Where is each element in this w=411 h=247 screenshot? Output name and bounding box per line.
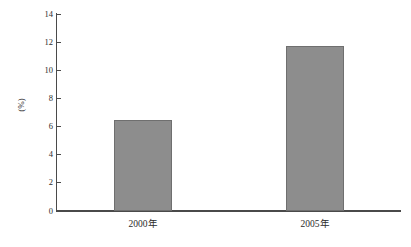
x-axis-line <box>56 210 401 212</box>
y-tick-mark <box>57 14 61 15</box>
x-tick-label: 2005年 <box>255 218 375 230</box>
y-tick-label: 4 <box>23 150 53 159</box>
y-tick-label: 8 <box>23 94 53 103</box>
y-tick-mark <box>57 182 61 183</box>
y-tick-label: 10 <box>23 66 53 75</box>
bar <box>286 46 344 211</box>
y-tick-mark <box>57 154 61 155</box>
y-tick-label: 12 <box>23 38 53 47</box>
bar-chart: (%) 02468101214 2000年2005年 <box>0 0 411 247</box>
y-tick-mark <box>57 70 61 71</box>
x-tick-label: 2000年 <box>83 218 203 230</box>
bar <box>114 120 172 211</box>
y-tick-mark <box>57 98 61 99</box>
y-tick-label: 2 <box>23 178 53 187</box>
y-tick-label: 14 <box>23 10 53 19</box>
y-tick-mark <box>57 211 61 212</box>
y-tick-label: 6 <box>23 122 53 131</box>
y-tick-label: 0 <box>23 207 53 216</box>
y-tick-mark <box>57 126 61 127</box>
y-axis-title: (%) <box>14 85 28 125</box>
y-tick-mark <box>57 42 61 43</box>
